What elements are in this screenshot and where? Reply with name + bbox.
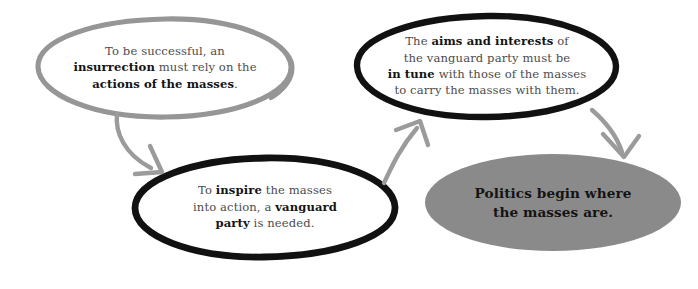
node-insurrection-text: To be successful, aninsurrection must re…: [73, 43, 256, 92]
text-line: in tune with those of the masses: [388, 66, 587, 82]
text-line: the vanguard party must be: [388, 50, 587, 66]
text-line: the masses are.: [475, 203, 632, 221]
text-line: The aims and interests of: [388, 33, 587, 49]
node-politics-masses: Politics begin wherethe masses are.: [424, 153, 682, 252]
diagram-canvas: To be successful, aninsurrection must re…: [0, 0, 698, 289]
node-aims-interests: The aims and interests ofthe vanguard pa…: [352, 11, 622, 121]
text-line: To inspire the masses: [193, 182, 337, 198]
text-line: into action, a vanguard: [193, 199, 337, 215]
node-vanguard-party-text: To inspire the massesinto action, a vang…: [193, 182, 337, 231]
text-line: actions of the masses.: [73, 76, 256, 92]
text-line: party is needed.: [193, 215, 337, 231]
node-aims-interests-text: The aims and interests ofthe vanguard pa…: [388, 33, 587, 99]
node-insurrection: To be successful, aninsurrection must re…: [33, 15, 297, 120]
node-vanguard-party: To inspire the massesinto action, a vang…: [130, 153, 400, 261]
text-line: insurrection must rely on the: [73, 59, 256, 75]
text-line: to carry the masses with them.: [388, 82, 587, 98]
text-line: Politics begin where: [475, 184, 632, 202]
node-politics-masses-text: Politics begin wherethe masses are.: [475, 184, 632, 221]
text-line: To be successful, an: [73, 43, 256, 59]
